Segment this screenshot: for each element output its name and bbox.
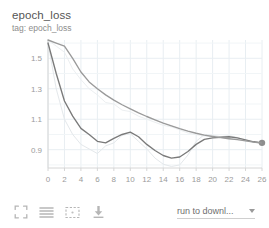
line-chart[interactable]: 0.91.11.31.502468101214161820222426 <box>0 36 269 188</box>
svg-text:22: 22 <box>225 175 234 184</box>
svg-text:0: 0 <box>46 175 51 184</box>
svg-text:16: 16 <box>175 175 184 184</box>
chart-card: epoch_loss tag: epoch_loss 0.91.11.31.50… <box>0 0 269 228</box>
svg-text:1.5: 1.5 <box>31 54 43 63</box>
svg-text:12: 12 <box>142 175 151 184</box>
fullscreen-icon[interactable] <box>10 202 31 223</box>
chevron-down-icon <box>249 209 255 213</box>
svg-text:1.1: 1.1 <box>31 115 43 124</box>
horizontal-lines-icon[interactable] <box>36 202 57 223</box>
svg-text:10: 10 <box>126 175 135 184</box>
svg-text:24: 24 <box>241 175 250 184</box>
chart-header: epoch_loss tag: epoch_loss <box>0 0 269 34</box>
svg-text:18: 18 <box>192 175 201 184</box>
plot-area[interactable]: 0.91.11.31.502468101214161820222426 <box>0 36 269 188</box>
svg-text:0.9: 0.9 <box>31 146 43 155</box>
chart-tag-label: tag: epoch_loss <box>12 23 269 34</box>
svg-text:6: 6 <box>95 175 100 184</box>
svg-text:8: 8 <box>112 175 117 184</box>
chart-toolbar: run to downl... <box>0 196 269 228</box>
page-title: epoch_loss <box>12 9 269 22</box>
run-selector-label: run to downl... <box>177 206 234 216</box>
svg-text:4: 4 <box>79 175 84 184</box>
svg-text:20: 20 <box>208 175 217 184</box>
download-icon[interactable] <box>88 202 109 223</box>
svg-text:26: 26 <box>258 175 267 184</box>
svg-text:2: 2 <box>62 175 67 184</box>
svg-text:1.3: 1.3 <box>31 85 43 94</box>
fit-domain-icon[interactable] <box>62 202 83 223</box>
run-selector[interactable]: run to downl... <box>177 206 255 219</box>
svg-text:14: 14 <box>159 175 168 184</box>
